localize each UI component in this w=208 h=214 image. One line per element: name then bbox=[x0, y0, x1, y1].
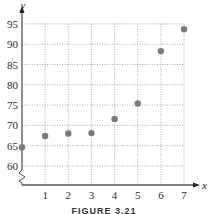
x-tick-label: 2 bbox=[66, 189, 72, 201]
x-tick-label: 4 bbox=[112, 189, 118, 201]
y-tick-label: 85 bbox=[7, 59, 19, 71]
data-point bbox=[19, 144, 25, 150]
y-tick-label: 65 bbox=[7, 140, 19, 152]
data-point bbox=[181, 26, 187, 32]
scatter-chart: 60657075808590951234567 x y bbox=[0, 0, 208, 214]
x-tick-label: 5 bbox=[135, 189, 141, 201]
figure-caption: FIGURE 3.21 bbox=[0, 206, 208, 214]
axes bbox=[19, 6, 200, 188]
grid-lines bbox=[22, 24, 184, 185]
data-point bbox=[135, 100, 141, 106]
data-points bbox=[19, 26, 187, 151]
x-tick-label: 7 bbox=[181, 189, 187, 201]
x-axis-arrow-icon bbox=[193, 183, 200, 188]
y-tick-label: 60 bbox=[7, 160, 19, 172]
y-tick-label: 90 bbox=[7, 38, 19, 50]
axis-break-icon bbox=[19, 170, 25, 185]
data-point bbox=[42, 133, 48, 139]
tick-labels: 60657075808590951234567 bbox=[7, 18, 187, 201]
y-tick-label: 75 bbox=[7, 99, 19, 111]
y-axis-label: y bbox=[20, 0, 26, 11]
data-point bbox=[65, 130, 71, 136]
x-tick-label: 3 bbox=[89, 189, 95, 201]
y-tick-label: 70 bbox=[7, 119, 19, 131]
data-point bbox=[158, 48, 164, 54]
data-point bbox=[88, 130, 94, 136]
x-tick-label: 1 bbox=[42, 189, 48, 201]
y-tick-label: 80 bbox=[7, 79, 19, 91]
y-tick-label: 95 bbox=[7, 18, 19, 30]
data-point bbox=[111, 116, 117, 122]
x-tick-label: 6 bbox=[158, 189, 164, 201]
x-axis-label: x bbox=[201, 179, 207, 191]
